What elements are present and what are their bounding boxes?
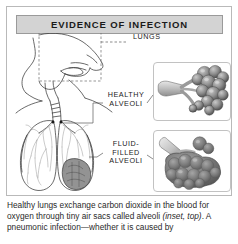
healthy-alveoli-illustration [154, 63, 230, 120]
label-healthy-alveoli: HEALTHY ALVEOLI [103, 91, 149, 108]
fluid-filled-alveoli-inset [153, 130, 231, 192]
label-fluid-filled-alveoli: FLUID- FILLED ALVEOLI [103, 140, 149, 166]
caption-inset-ref-b: top) [187, 211, 201, 221]
evidence-of-infection-figure: EVIDENCE OF INFECTION [0, 0, 238, 244]
figure-title-banner: EVIDENCE OF INFECTION [16, 15, 223, 34]
illustration-frame: EVIDENCE OF INFECTION [6, 6, 232, 196]
caption-line-1: Healthy lungs exchange carbon dioxide in… [7, 200, 197, 210]
fluid-filled-alveoli-illustration [154, 131, 230, 191]
page-title: EVIDENCE OF INFECTION [51, 19, 188, 30]
caption-inset-ref-a: (inset, [162, 211, 185, 221]
infected-region [62, 159, 91, 190]
label-lungs: LUNGS [133, 33, 161, 42]
healthy-alveoli-inset [153, 62, 231, 121]
figure-caption: Healthy lungs exchange carbon dioxide in… [7, 200, 233, 234]
human-head-and-lungs-diagram [9, 33, 127, 193]
